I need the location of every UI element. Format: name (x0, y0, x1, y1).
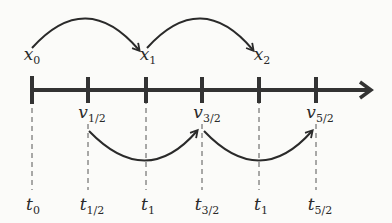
arc-v32-v52 (204, 131, 312, 161)
label-v-three-halves: v3/2 (193, 104, 220, 124)
arc-x0-x1 (32, 18, 139, 50)
arc-x1-x2 (147, 18, 253, 50)
label-t-half: t1/2 (80, 196, 105, 216)
arc-v12-v32 (89, 131, 197, 161)
label-t-three-halves: t3/2 (195, 196, 220, 216)
label-v-five-halves: v5/2 (306, 104, 333, 124)
dashed-guides (32, 99, 316, 190)
label-v-half: v1/2 (78, 104, 105, 124)
label-x2: x2 (254, 46, 271, 66)
label-x0: x0 (24, 46, 41, 66)
label-x1: x1 (140, 46, 157, 66)
leapfrog-diagram: x0 x1 x2 v1/2 v3/2 v5/2 t0 t1/2 t1 t3/2 … (0, 0, 392, 223)
label-t0: t0 (26, 196, 40, 216)
label-t1: t1 (141, 196, 155, 216)
velocity-arcs (89, 131, 312, 161)
label-t1-second: t1 (254, 196, 268, 216)
label-t-five-halves: t5/2 (308, 196, 333, 216)
